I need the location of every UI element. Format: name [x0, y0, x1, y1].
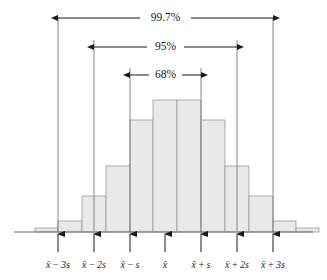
axis-label-minus-1s-op: − [125, 259, 136, 270]
axis-label-mean: x̄ [162, 259, 168, 270]
bar-5 [130, 120, 153, 232]
axis-label-plus-3s-term: 3s [275, 259, 285, 270]
interval-99-7-label: 99.7% [151, 11, 181, 23]
axis-label-plus-2s-term: 2s [240, 259, 249, 270]
interval-68-label: 68% [155, 68, 177, 80]
axis-label-plus-2s-op: + [229, 259, 240, 270]
bar-8 [201, 120, 225, 232]
axis-label-minus-2s-op: − [86, 259, 97, 270]
axis-label-minus-1s: x̄ − s [120, 259, 140, 270]
empirical-rule-figure: 99.7% 95% 68% x̄ − 3s [0, 0, 327, 280]
interval-99-7: 99.7% [58, 11, 273, 23]
histogram-bars [35, 100, 319, 232]
axis-tick-labels: x̄ − 3s x̄ − 2s x̄ − s x̄ x̄ + s x̄ + 2s… [45, 259, 285, 270]
bar-6 [153, 100, 177, 232]
axis-label-minus-1s-term: s [136, 259, 140, 270]
bar-10 [249, 196, 273, 232]
axis-label-plus-3s: x̄ + 3s [260, 259, 285, 270]
axis-label-minus-3s-term: 3s [60, 259, 70, 270]
bar-7 [177, 100, 201, 232]
axis-label-plus-2s: x̄ + 2s [224, 259, 249, 270]
bar-11 [273, 221, 296, 232]
bar-12 [296, 228, 319, 232]
axis-label-minus-3s-op: − [50, 259, 61, 270]
interval-95: 95% [94, 40, 237, 52]
bar-2 [58, 221, 82, 232]
axis-label-plus-1s-term: s [207, 259, 211, 270]
axis-label-plus-3s-op: + [265, 259, 276, 270]
interval-68: 68% [130, 68, 201, 80]
figure-canvas: 99.7% 95% 68% x̄ − 3s [0, 0, 327, 280]
bar-1 [35, 228, 58, 232]
interval-95-label: 95% [155, 40, 177, 52]
axis-tick-arrows [58, 234, 273, 252]
axis-label-minus-3s: x̄ − 3s [45, 259, 70, 270]
axis-label-plus-1s: x̄ + s [191, 259, 211, 270]
axis-label-minus-2s-term: 2s [97, 259, 106, 270]
bar-4 [106, 166, 130, 232]
axis-label-plus-1s-op: + [196, 259, 207, 270]
axis-label-minus-2s: x̄ − 2s [81, 259, 106, 270]
axis-label-mean-mean: x̄ [162, 259, 168, 270]
